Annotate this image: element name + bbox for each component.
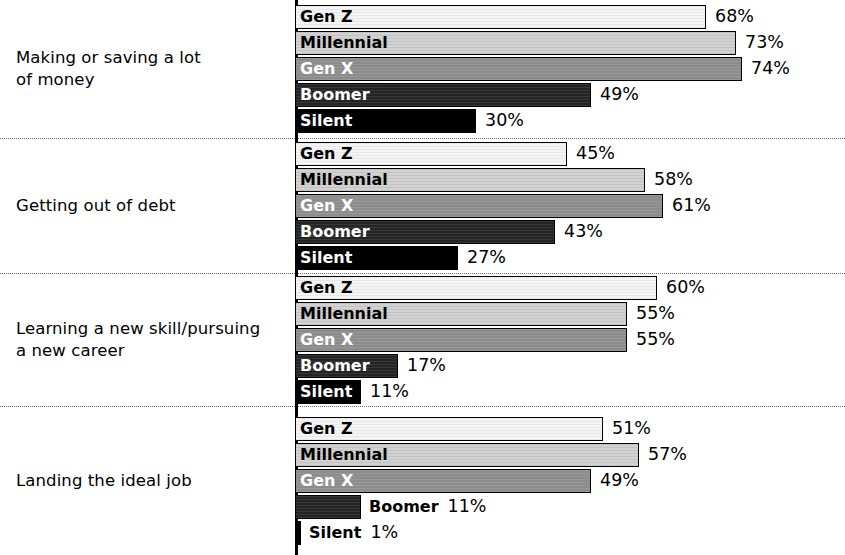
bar-gen-z[interactable]: Gen Z xyxy=(295,417,603,441)
category-label-line1: Getting out of debt xyxy=(16,195,176,217)
category-label: Learning a new skill/pursuinga new caree… xyxy=(16,318,260,362)
plot-area: Gen Z51%Millennial57%Gen X49%Boomer11%Si… xyxy=(295,406,845,555)
bar-row-boomer: Boomer49% xyxy=(295,83,845,107)
bar-series-label: Gen X xyxy=(296,332,353,348)
bar-value-label: 68% xyxy=(706,8,754,26)
bar-row-millennial: Millennial55% xyxy=(295,302,845,326)
bar-value-label: 51% xyxy=(603,420,651,438)
bar-value-label: 57% xyxy=(639,446,687,464)
bar-value-label: 55% xyxy=(627,305,675,323)
bar-series-label: Boomer xyxy=(296,358,370,374)
chart-group-landing-the-ideal-job: Landing the ideal jobGen Z51%Millennial5… xyxy=(0,406,845,555)
bar-value-label: 30% xyxy=(476,112,524,130)
bar-value-label: 1% xyxy=(361,524,398,542)
bar-gen-z[interactable]: Gen Z xyxy=(295,5,706,29)
bar-boomer[interactable] xyxy=(295,495,361,519)
bar-row-silent: Silent27% xyxy=(295,246,845,270)
category-label: Making or saving a lotof money xyxy=(16,47,201,91)
bar-value-label: 11% xyxy=(439,498,487,516)
bar-series-label: Boomer xyxy=(361,499,439,515)
bar-gen-z[interactable]: Gen Z xyxy=(295,142,567,166)
bar-value-label: 61% xyxy=(663,197,711,215)
bar-series-label: Millennial xyxy=(296,306,388,322)
bar-row-gen-x: Gen X49% xyxy=(295,469,845,493)
bar-value-label: 49% xyxy=(591,472,639,490)
category-label-cell: Learning a new skill/pursuinga new caree… xyxy=(0,273,295,406)
bar-row-boomer: Boomer43% xyxy=(295,220,845,244)
bar-row-boomer: Boomer11% xyxy=(295,495,845,519)
bar-chart: Making or saving a lotof moneyGen Z68%Mi… xyxy=(0,0,845,555)
chart-group-making-or-saving-a-lot-of-money: Making or saving a lotof moneyGen Z68%Mi… xyxy=(0,0,845,138)
bar-series-label: Gen Z xyxy=(296,421,353,437)
bar-row-gen-z: Gen Z68% xyxy=(295,5,845,29)
bar-value-label: 45% xyxy=(567,145,615,163)
chart-group-getting-out-of-debt: Getting out of debtGen Z45%Millennial58%… xyxy=(0,138,845,273)
bar-value-label: 58% xyxy=(645,171,693,189)
bar-row-silent: Silent11% xyxy=(295,380,845,404)
bar-series-label: Millennial xyxy=(296,447,388,463)
bar-boomer[interactable]: Boomer xyxy=(295,83,591,107)
bar-row-gen-z: Gen Z51% xyxy=(295,417,845,441)
bar-millennial[interactable]: Millennial xyxy=(295,31,736,55)
bar-value-label: 73% xyxy=(736,34,784,52)
bar-value-label: 43% xyxy=(555,223,603,241)
bar-series-label: Silent xyxy=(296,384,352,400)
bar-row-gen-z: Gen Z60% xyxy=(295,276,845,300)
bar-row-millennial: Millennial58% xyxy=(295,168,845,192)
bar-millennial[interactable]: Millennial xyxy=(295,302,627,326)
bar-value-label: 60% xyxy=(657,279,705,297)
bar-series-label: Silent xyxy=(296,250,352,266)
bar-silent[interactable]: Silent xyxy=(295,109,476,133)
bar-value-label: 74% xyxy=(742,60,790,78)
bar-gen-x[interactable]: Gen X xyxy=(295,328,627,352)
bar-series-label: Gen Z xyxy=(296,146,353,162)
bar-series-label: Millennial xyxy=(296,172,388,188)
category-label-line2: a new career xyxy=(16,340,260,362)
bar-series-label: Boomer xyxy=(296,87,370,103)
bar-value-label: 49% xyxy=(591,86,639,104)
bar-row-millennial: Millennial73% xyxy=(295,31,845,55)
bar-gen-z[interactable]: Gen Z xyxy=(295,276,657,300)
chart-group-learning-a-new-skill-pursuing-a-new-career: Learning a new skill/pursuinga new caree… xyxy=(0,273,845,406)
category-label: Landing the ideal job xyxy=(16,470,192,492)
bar-gen-x[interactable]: Gen X xyxy=(295,469,591,493)
bar-gen-x[interactable]: Gen X xyxy=(295,57,742,81)
bar-row-boomer: Boomer17% xyxy=(295,354,845,378)
bar-row-silent: Silent30% xyxy=(295,109,845,133)
category-label-cell: Making or saving a lotof money xyxy=(0,0,295,138)
bar-series-label: Silent xyxy=(296,113,352,129)
bar-series-label: Silent xyxy=(301,525,361,541)
bar-series-label: Millennial xyxy=(296,35,388,51)
bar-millennial[interactable]: Millennial xyxy=(295,168,645,192)
plot-area: Gen Z60%Millennial55%Gen X55%Boomer17%Si… xyxy=(295,273,845,406)
bar-millennial[interactable]: Millennial xyxy=(295,443,639,467)
category-label-cell: Landing the ideal job xyxy=(0,406,295,555)
bar-value-label: 17% xyxy=(398,357,446,375)
bar-gen-x[interactable]: Gen X xyxy=(295,194,663,218)
bar-boomer[interactable]: Boomer xyxy=(295,354,398,378)
bar-row-silent: Silent1% xyxy=(295,521,845,545)
bar-row-millennial: Millennial57% xyxy=(295,443,845,467)
category-label-cell: Getting out of debt xyxy=(0,138,295,273)
plot-area: Gen Z68%Millennial73%Gen X74%Boomer49%Si… xyxy=(295,0,845,138)
bar-silent[interactable]: Silent xyxy=(295,380,361,404)
category-label-line1: Learning a new skill/pursuing xyxy=(16,318,260,340)
category-label-line1: Making or saving a lot xyxy=(16,47,201,69)
bar-series-label: Gen Z xyxy=(296,280,353,296)
category-label-line1: Landing the ideal job xyxy=(16,470,192,492)
category-label-line2: of money xyxy=(16,69,201,91)
plot-area: Gen Z45%Millennial58%Gen X61%Boomer43%Si… xyxy=(295,138,845,273)
bar-row-gen-x: Gen X61% xyxy=(295,194,845,218)
bar-boomer[interactable]: Boomer xyxy=(295,220,555,244)
bar-series-label: Gen X xyxy=(296,473,353,489)
bar-value-label: 11% xyxy=(361,383,409,401)
bar-series-label: Gen X xyxy=(296,198,353,214)
bar-series-label: Gen X xyxy=(296,61,353,77)
bar-row-gen-x: Gen X74% xyxy=(295,57,845,81)
bar-value-label: 55% xyxy=(627,331,675,349)
bar-series-label: Boomer xyxy=(296,224,370,240)
bar-series-label: Gen Z xyxy=(296,9,353,25)
bar-silent[interactable]: Silent xyxy=(295,246,458,270)
category-label: Getting out of debt xyxy=(16,195,176,217)
bar-value-label: 27% xyxy=(458,249,506,267)
